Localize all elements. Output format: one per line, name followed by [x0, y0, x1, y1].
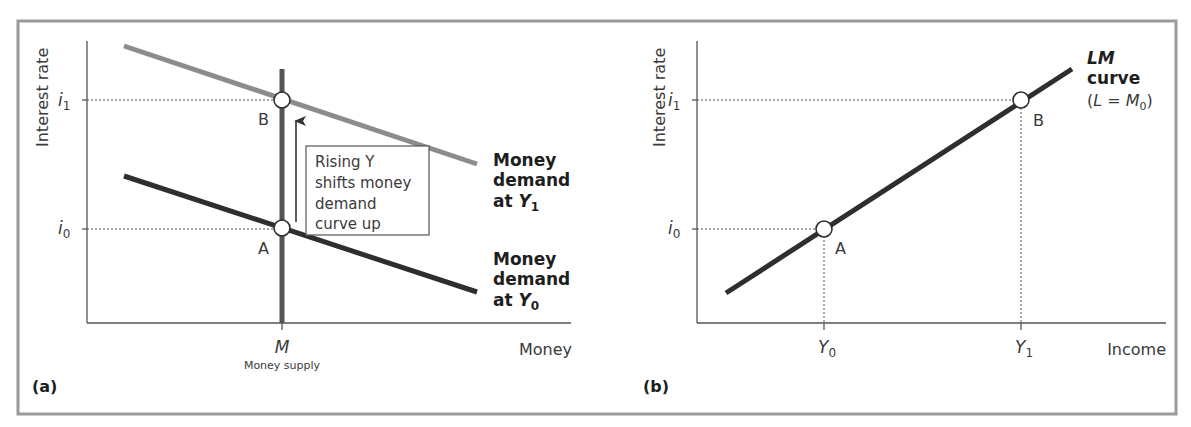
- lm-curve-title: LM: [1087, 48, 1115, 68]
- panel-b-point-b-label: B: [1033, 111, 1044, 130]
- panel-a-y-axis-label: Interest rate: [33, 48, 52, 147]
- panel-a-point-b-label: B: [258, 110, 269, 129]
- panel-b-point-a-label: A: [835, 239, 846, 258]
- panel-b-x-axis-label: Income: [1107, 340, 1166, 359]
- panel-a-point-a: [274, 220, 290, 236]
- panel-b-tag: (b): [643, 377, 669, 396]
- panel-a-point-b: [274, 92, 290, 108]
- figure-frame: [18, 21, 1176, 414]
- panel-b-point-b: [1013, 92, 1029, 108]
- panel-a-m-label: M: [275, 337, 290, 357]
- panel-b-y-axis-label: Interest rate: [650, 48, 669, 147]
- figure-canvas: Interest rate i1 i0 B A Rising Y shifts …: [0, 0, 1191, 427]
- panel-a-tag: (a): [32, 377, 57, 396]
- panel-a-x-axis-label: Money: [519, 340, 572, 359]
- lm-curve-word: curve: [1087, 68, 1140, 88]
- panel-a-money-supply-caption: Money supply: [244, 359, 321, 372]
- panel-a-point-a-label: A: [258, 239, 269, 258]
- panel-b-point-a: [816, 221, 832, 237]
